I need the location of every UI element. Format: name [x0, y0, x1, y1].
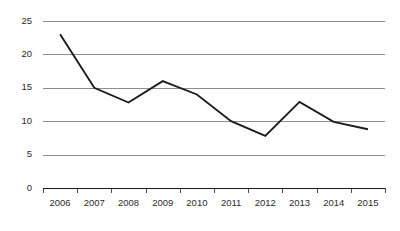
y-axis-tick-label: 15 — [21, 81, 32, 92]
chart-plot-area: 0510152025 20062007200820092010201120122… — [0, 0, 400, 231]
y-axis-tick-label: 10 — [21, 115, 32, 126]
x-axis-tick-label: 2008 — [118, 197, 139, 208]
x-axis-tick-label: 2007 — [84, 197, 105, 208]
data-series-line — [60, 34, 368, 136]
y-axis-tick-label: 0 — [27, 182, 32, 193]
x-axis-tick-label: 2011 — [221, 197, 241, 208]
x-axis-tick-label: 2010 — [186, 197, 207, 208]
x-axis-tick-label: 2015 — [357, 197, 378, 208]
x-axis-tick-labels-group: 2006200720082009201020112012201320142015 — [50, 197, 379, 208]
x-axis-tick-label: 2014 — [323, 197, 344, 208]
y-axis-tick-label: 25 — [21, 15, 32, 26]
y-axis-tick-label: 20 — [21, 48, 32, 59]
y-axis-tick-labels-group: 0510152025 — [21, 15, 32, 193]
x-axis-tick-label: 2006 — [50, 197, 71, 208]
x-axis-tick-label: 2009 — [152, 197, 173, 208]
x-axis-tick-label: 2013 — [289, 197, 310, 208]
y-axis-tick-label: 5 — [27, 148, 32, 159]
line-chart-figure: 0510152025 20062007200820092010201120122… — [0, 0, 400, 231]
x-axis-tick-label: 2012 — [255, 197, 276, 208]
